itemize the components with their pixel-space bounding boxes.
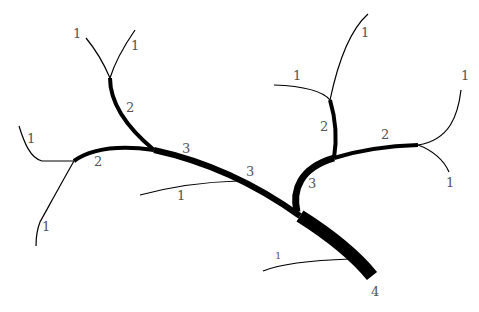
stream-order-2-left	[74, 148, 154, 161]
stream-order-1-mid-lower	[140, 181, 238, 195]
order-label: 3	[308, 176, 316, 191]
order-label: 1	[361, 25, 369, 40]
stream-order-2-right-horizontal	[334, 145, 418, 158]
order-label: 1	[131, 38, 139, 53]
order-label: 1	[461, 68, 469, 83]
order-label: 1	[446, 175, 454, 190]
order-label: 4	[371, 284, 379, 299]
stream-order-3-main	[154, 150, 300, 216]
order-label: 1	[42, 219, 50, 234]
order-label: 1	[293, 68, 301, 83]
stream-order-2-right-vertical	[330, 100, 336, 158]
stream-order-diagram: 1 1 2 3 1 2 1 3 1 1 1 2 2 1 1 3 1 4	[0, 0, 479, 312]
order-label: 3	[182, 141, 190, 156]
order-label: 2	[94, 154, 102, 169]
stream-order-1-right-upper	[274, 85, 330, 100]
order-label: 1	[177, 188, 185, 203]
order-label: 1	[73, 26, 81, 41]
order-label: 2	[126, 100, 134, 115]
order-label: 3	[246, 164, 254, 179]
stream-order-1-top-left-a	[86, 38, 110, 78]
order-label: 2	[320, 119, 328, 134]
order-label: 1	[27, 131, 35, 146]
order-label: 2	[381, 127, 389, 142]
order-label: 1	[275, 250, 281, 261]
stream-order-1-far-right-lower	[418, 145, 449, 172]
stream-order-1-far-right-upper	[418, 90, 461, 145]
stream-order-4-trunk	[300, 216, 372, 276]
